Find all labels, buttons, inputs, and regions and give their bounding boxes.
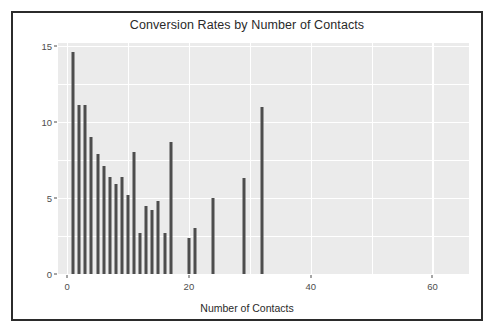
chart-title: Conversion Rates by Number of Contacts: [13, 18, 481, 32]
chart-figure: Conversion Rates by Number of Contacts C…: [11, 11, 483, 321]
gridline-vertical-major: [311, 43, 312, 274]
gridline-horizontal-major: [58, 274, 469, 275]
bar: [169, 142, 172, 274]
bar: [194, 228, 197, 274]
gridline-vertical-minor: [250, 43, 251, 274]
y-tick-label: 10: [41, 117, 52, 128]
x-tick-label: 40: [305, 281, 316, 292]
bar: [260, 107, 263, 274]
gridline-horizontal-minor: [58, 84, 469, 85]
x-axis-title: Number of Contacts: [13, 302, 481, 314]
bar: [108, 177, 111, 274]
y-tick-mark: [54, 274, 57, 275]
plot-area: Conversion Rates by Number of Contacts C…: [13, 13, 481, 319]
bar: [84, 105, 87, 274]
bar: [187, 238, 190, 274]
bar: [96, 154, 99, 274]
gridline-vertical-major: [67, 43, 68, 274]
bar: [127, 195, 130, 274]
y-tick-label: 0: [47, 269, 52, 280]
bar: [163, 233, 166, 274]
y-tick-mark: [54, 122, 57, 123]
chart-panel: 0510150204060: [58, 43, 469, 274]
x-tick-mark: [310, 275, 311, 278]
gridline-horizontal-major: [58, 122, 469, 123]
bar: [145, 206, 148, 274]
y-tick-mark: [54, 198, 57, 199]
y-tick-label: 15: [41, 41, 52, 52]
bar: [157, 201, 160, 274]
gridline-horizontal-major: [58, 46, 469, 47]
bar: [139, 233, 142, 274]
x-tick-label: 60: [427, 281, 438, 292]
bar: [102, 166, 105, 274]
y-tick-label: 5: [47, 193, 52, 204]
y-tick-mark: [54, 46, 57, 47]
x-tick-mark: [67, 275, 68, 278]
gridline-horizontal-minor: [58, 160, 469, 161]
bar: [151, 210, 154, 274]
bar: [90, 137, 93, 274]
gridline-vertical-major: [432, 43, 433, 274]
x-tick-mark: [432, 275, 433, 278]
bar: [133, 152, 136, 274]
bar: [212, 198, 215, 274]
bar: [242, 178, 245, 274]
x-tick-label: 20: [184, 281, 195, 292]
x-tick-mark: [188, 275, 189, 278]
bar: [78, 105, 81, 274]
bar: [120, 177, 123, 274]
bar: [72, 52, 75, 274]
x-tick-label: 0: [64, 281, 69, 292]
bar: [114, 184, 117, 274]
gridline-vertical-minor: [372, 43, 373, 274]
